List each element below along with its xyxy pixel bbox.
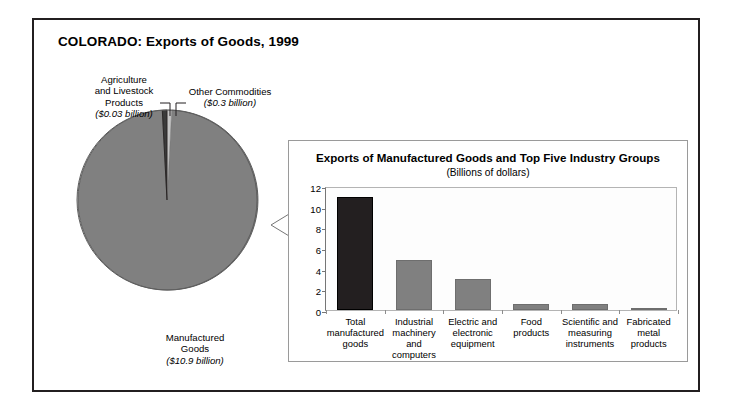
x-axis-label: Fabricatedmetalproducts bbox=[619, 316, 678, 349]
x-axis-tick-mark bbox=[443, 310, 444, 314]
x-axis-tick-mark bbox=[678, 310, 679, 314]
pie-label-other-line1: Other Commodities bbox=[176, 86, 284, 97]
x-axis-label-line: products bbox=[619, 338, 678, 349]
pie-label-other-amount: ($0.3 billion) bbox=[176, 97, 284, 108]
bar bbox=[513, 304, 549, 310]
bar bbox=[396, 260, 432, 310]
bar-chart-panel: Exports of Manufactured Goods and Top Fi… bbox=[288, 140, 688, 362]
y-axis-tick-label: 2 bbox=[316, 286, 321, 297]
bar-chart-plot-area: 024681012TotalmanufacturedgoodsIndustria… bbox=[325, 187, 677, 311]
x-axis-label-line: Scientific and bbox=[561, 316, 620, 327]
y-axis-tick-label: 8 bbox=[316, 224, 321, 235]
y-axis-tick-label: 0 bbox=[316, 307, 321, 318]
bar-chart-subtitle: (Billions of dollars) bbox=[289, 167, 687, 178]
pie-label-agriculture-line3: Products bbox=[78, 97, 170, 108]
pie-label-agriculture-line1: Agriculture bbox=[78, 74, 170, 85]
pie-label-agriculture-amount: ($0.03 billion) bbox=[78, 108, 170, 119]
pie-chart bbox=[72, 105, 262, 295]
x-axis-tick-mark bbox=[385, 310, 386, 314]
y-axis-tick-mark bbox=[322, 188, 326, 189]
y-axis-tick-mark bbox=[322, 209, 326, 210]
bar bbox=[572, 304, 608, 310]
pie-label-manufactured-goods: Manufactured Goods ($10.9 billion) bbox=[120, 332, 270, 366]
x-axis-label-line: goods bbox=[326, 338, 385, 349]
y-axis-tick-label: 12 bbox=[310, 183, 321, 194]
pie-label-manufactured-amount: ($10.9 billion) bbox=[120, 355, 270, 366]
x-axis-tick-mark bbox=[619, 310, 620, 314]
bar bbox=[455, 279, 491, 310]
x-axis-tick-mark bbox=[561, 310, 562, 314]
bar-chart-title: Exports of Manufactured Goods and Top Fi… bbox=[289, 151, 687, 164]
x-axis-tick-mark bbox=[502, 310, 503, 314]
x-axis-label-line: Food products bbox=[502, 316, 561, 338]
x-axis-label-line: machinery and bbox=[385, 327, 444, 349]
x-axis-label: Electric andelectronicequipment bbox=[443, 316, 502, 349]
x-axis-label-line: Total bbox=[326, 316, 385, 327]
y-axis-tick-mark bbox=[322, 271, 326, 272]
x-axis-label-line: Electric and bbox=[443, 316, 502, 327]
y-axis-tick-mark bbox=[322, 250, 326, 251]
x-axis-label-line: instruments bbox=[561, 338, 620, 349]
pie-label-agriculture-line2: and Livestock bbox=[78, 85, 170, 96]
bar bbox=[337, 197, 373, 310]
y-axis-tick-label: 10 bbox=[310, 203, 321, 214]
x-axis-label-line: equipment bbox=[443, 338, 502, 349]
x-axis-label-line: electronic bbox=[443, 327, 502, 338]
x-axis-label-line: Fabricated bbox=[619, 316, 678, 327]
figure-frame: COLORADO: Exports of Goods, 1999 Agricul… bbox=[32, 18, 700, 392]
x-axis-label-line: metal bbox=[619, 327, 678, 338]
x-axis-label-line: Industrial bbox=[385, 316, 444, 327]
y-axis-tick-mark bbox=[322, 229, 326, 230]
x-axis-label-line: measuring bbox=[561, 327, 620, 338]
bar bbox=[631, 308, 667, 310]
x-axis-label-line: manufactured bbox=[326, 327, 385, 338]
x-axis-tick-mark bbox=[326, 310, 327, 314]
x-axis-label-line: computers bbox=[385, 349, 444, 360]
pie-label-manufactured-line1: Manufactured bbox=[120, 332, 270, 343]
pie-label-other-commodities: Other Commodities ($0.3 billion) bbox=[176, 86, 284, 109]
y-axis-tick-label: 4 bbox=[316, 265, 321, 276]
x-axis-label: Food products bbox=[502, 316, 561, 338]
pie-label-agriculture: Agriculture and Livestock Products ($0.0… bbox=[78, 74, 170, 120]
x-axis-label: Totalmanufacturedgoods bbox=[326, 316, 385, 349]
x-axis-label: Industrialmachinery andcomputers bbox=[385, 316, 444, 360]
y-axis-tick-mark bbox=[322, 291, 326, 292]
y-axis-tick-label: 6 bbox=[316, 245, 321, 256]
pie-label-manufactured-line2: Goods bbox=[120, 343, 270, 354]
x-axis-label: Scientific andmeasuringinstruments bbox=[561, 316, 620, 349]
